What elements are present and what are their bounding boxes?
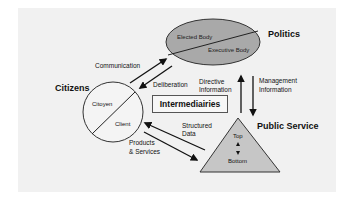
structured-data-label-line1: Structured xyxy=(182,123,212,130)
top-label: Top xyxy=(233,133,243,139)
products-label-line1: Products xyxy=(129,140,155,147)
management-label-line2: Information xyxy=(259,87,292,94)
management-label-line1: Management xyxy=(259,78,297,85)
citizens-circle xyxy=(83,82,143,142)
deliberation-label: Deliberation xyxy=(153,82,188,89)
client-label: Client xyxy=(115,121,130,127)
directive-label-line1: Directive xyxy=(199,79,224,86)
citizens-label: Citizens xyxy=(55,84,90,93)
communication-label: Communication xyxy=(95,63,140,70)
products-label-line2: & Services xyxy=(129,149,160,156)
diagram-canvas: Politics Elected Body Executive Body Cit… xyxy=(0,0,351,201)
structured-data-label-line2: Data xyxy=(182,131,196,138)
politics-ellipse xyxy=(166,19,260,65)
citoyen-label: Citoyen xyxy=(92,101,112,107)
elected-body-label: Elected Body xyxy=(177,34,212,40)
bottom-label: Bottom xyxy=(228,158,247,164)
directive-label-line2: Information xyxy=(199,87,232,94)
public-service-label: Public Service xyxy=(257,122,319,131)
intermediaries-box: Intermediairies xyxy=(152,95,228,113)
executive-body-label: Executive Body xyxy=(208,47,249,53)
politics-label: Politics xyxy=(268,30,300,39)
